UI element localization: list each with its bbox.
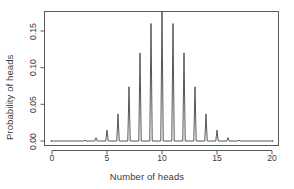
x-tick-label: 20 (260, 153, 284, 163)
y-tick-label: 0.00 (28, 126, 39, 156)
y-axis-title: Probability of heads (4, 0, 16, 140)
x-tick-label: 15 (205, 153, 229, 163)
y-tick-label: 0.10 (28, 53, 39, 83)
x-tick-label: 0 (40, 153, 64, 163)
x-axis-title: Number of heads (0, 171, 294, 182)
chart-figure: Number of heads Probability of heads 051… (0, 0, 294, 189)
y-tick-label: 0.15 (28, 16, 39, 46)
x-tick-label: 10 (150, 153, 174, 163)
x-tick-label: 5 (95, 153, 119, 163)
y-tick-label: 0.05 (28, 89, 39, 119)
